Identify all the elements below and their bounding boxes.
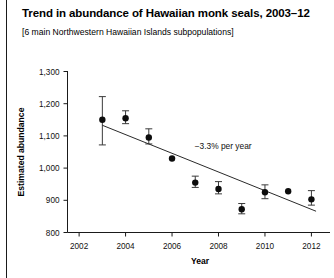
- data-point: [215, 186, 221, 192]
- data-point: [239, 206, 245, 212]
- x-tick-label: 2004: [116, 242, 135, 251]
- data-point: [192, 179, 198, 185]
- y-tick-label: 1,300: [39, 68, 60, 77]
- chart-plot-area: 8009001,0001,1001,2001,300 2002200420062…: [0, 0, 334, 278]
- y-tick-label: 800: [46, 229, 60, 238]
- y-tick-label: 1,200: [39, 100, 60, 109]
- y-axis-ticks: 8009001,0001,1001,2001,300: [39, 68, 68, 238]
- y-axis-title: Estimated abundance: [16, 107, 26, 196]
- x-tick-label: 2002: [70, 242, 89, 251]
- y-tick-label: 1,000: [39, 164, 60, 173]
- error-bars: [99, 97, 315, 214]
- data-point: [146, 134, 152, 140]
- x-axis-title: Year: [191, 256, 210, 266]
- chart-svg: 8009001,0001,1001,2001,300 2002200420062…: [0, 0, 334, 278]
- x-tick-label: 2010: [256, 242, 275, 251]
- x-tick-label: 2012: [302, 242, 321, 251]
- y-tick-label: 900: [46, 196, 60, 205]
- data-point: [169, 155, 175, 161]
- trend-line: [102, 125, 316, 211]
- trend-annotation: −3.3% per year: [195, 141, 252, 151]
- data-point: [308, 196, 314, 202]
- data-point: [285, 188, 291, 194]
- x-axis-ticks: 200220042006200820102012: [70, 233, 321, 251]
- x-tick-label: 2008: [209, 242, 228, 251]
- data-point: [122, 115, 128, 121]
- y-tick-label: 1,100: [39, 132, 60, 141]
- data-point: [99, 117, 105, 123]
- data-point: [262, 189, 268, 195]
- x-tick-label: 2006: [163, 242, 182, 251]
